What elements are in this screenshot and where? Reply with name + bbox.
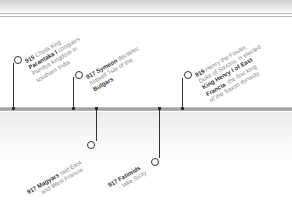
timeline-shadow bbox=[0, 112, 292, 172]
connector-line bbox=[182, 78, 183, 108]
header-rule-top bbox=[0, 13, 292, 14]
event-node-icon bbox=[14, 56, 22, 64]
event-node-icon bbox=[184, 71, 192, 79]
event-node-icon bbox=[151, 158, 159, 166]
event-text: 919 Henry the Fowler, Duke of Saxony, is… bbox=[194, 38, 273, 104]
timeline-bar bbox=[0, 107, 292, 111]
connector-line bbox=[13, 63, 14, 108]
connector-line bbox=[159, 110, 160, 158]
event-text: 917 Symeon declares himself Tsar of the … bbox=[85, 45, 147, 93]
page-top-shade bbox=[0, 0, 292, 12]
event-node-icon bbox=[87, 141, 95, 149]
event-node-icon bbox=[75, 71, 83, 79]
connector-line bbox=[73, 77, 74, 108]
connector-line bbox=[96, 110, 97, 141]
header-rule-bottom bbox=[0, 16, 292, 17]
